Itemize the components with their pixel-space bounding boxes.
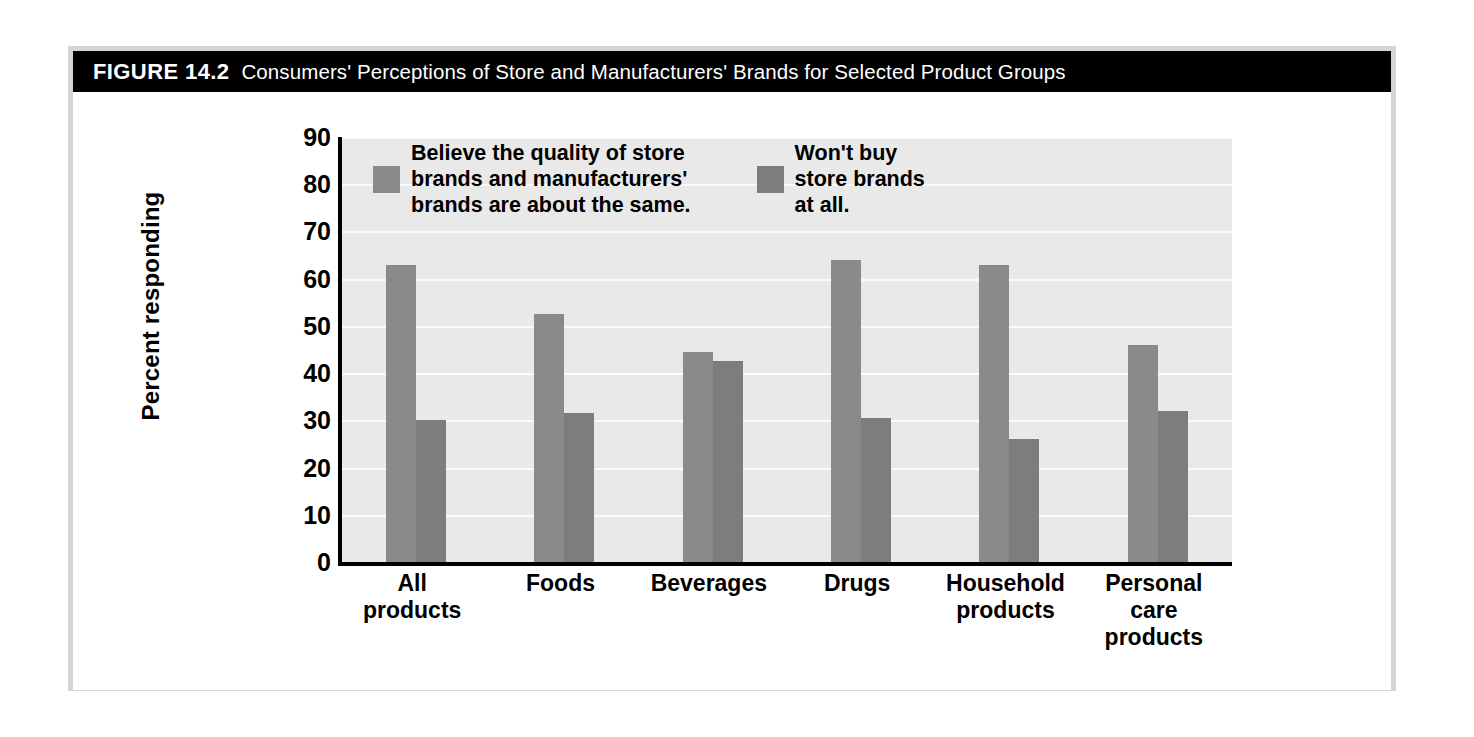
x-axis-label: Personalcareproducts xyxy=(1080,570,1228,651)
y-axis-tick-50: 50 xyxy=(271,311,331,340)
legend-label: Believe the quality of store brands and … xyxy=(411,140,691,219)
x-axis-label: Householdproducts xyxy=(931,570,1079,651)
chart-area: Percent responding 9080706050403020100 A… xyxy=(73,92,1391,690)
bar-series-1 xyxy=(534,314,564,562)
bar-series-2 xyxy=(1158,411,1188,562)
y-axis-title: Percent responding xyxy=(137,156,165,456)
y-axis-tick-20: 20 xyxy=(271,453,331,482)
legend-entry-2: Won't buy store brands at all. xyxy=(757,140,925,219)
figure-page: FIGURE 14.2 Consumers' Perceptions of St… xyxy=(0,0,1474,737)
legend-swatch-icon xyxy=(373,166,400,193)
figure-number-label: FIGURE 14.2 xyxy=(93,59,229,85)
chart-legend: Believe the quality of store brands and … xyxy=(373,140,925,219)
bar-series-1 xyxy=(831,260,861,562)
legend-entry-1: Believe the quality of store brands and … xyxy=(373,140,691,219)
legend-swatch-icon xyxy=(757,166,784,193)
x-axis-tick-labels: AllproductsFoodsBeveragesDrugsHouseholdp… xyxy=(338,570,1228,651)
y-axis-tick-40: 40 xyxy=(271,359,331,388)
bar-series-1 xyxy=(683,352,713,562)
bar-series-1 xyxy=(979,265,1009,563)
y-axis-tick-60: 60 xyxy=(271,264,331,293)
bar-series-1 xyxy=(386,265,416,563)
bar-series-2 xyxy=(713,361,743,562)
x-axis-label: Allproducts xyxy=(338,570,486,651)
legend-label: Won't buy store brands at all. xyxy=(795,140,925,219)
bar-series-1 xyxy=(1128,345,1158,562)
bar-group xyxy=(1084,137,1232,562)
bar-group xyxy=(935,137,1083,562)
x-axis-label: Foods xyxy=(486,570,634,651)
y-axis-tick-80: 80 xyxy=(271,170,331,199)
bar-series-2 xyxy=(416,420,446,562)
figure-title-text: Consumers' Perceptions of Store and Manu… xyxy=(241,60,1065,84)
y-axis-tick-90: 90 xyxy=(271,123,331,152)
bar-series-2 xyxy=(564,413,594,562)
figure-title-bar: FIGURE 14.2 Consumers' Perceptions of St… xyxy=(73,51,1391,92)
x-axis-label: Beverages xyxy=(635,570,783,651)
bar-series-2 xyxy=(861,418,891,562)
y-axis-tick-0: 0 xyxy=(271,548,331,577)
y-axis-tick-labels: 9080706050403020100 xyxy=(271,137,331,562)
x-axis-label: Drugs xyxy=(783,570,931,651)
bar-series-2 xyxy=(1009,439,1039,562)
y-axis-tick-10: 10 xyxy=(271,500,331,529)
y-axis-tick-30: 30 xyxy=(271,406,331,435)
y-axis-tick-70: 70 xyxy=(271,217,331,246)
